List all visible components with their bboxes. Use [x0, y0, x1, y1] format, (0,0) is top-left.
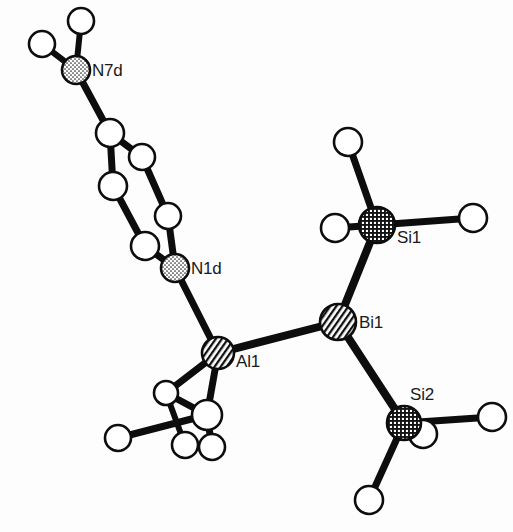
atom-n-n7d — [62, 56, 90, 84]
structure-canvas: N7dN1dAl1Bi1Si1Si2 — [0, 0, 513, 532]
atom-hydrogen-hm3 — [199, 434, 225, 460]
atom-si-si2 — [387, 406, 421, 440]
atom-bi-bi1 — [320, 304, 356, 340]
atom-label-al1: Al1 — [236, 352, 260, 371]
atom-label-n1d: N1d — [191, 259, 222, 278]
atom-hydrogen-hs2c — [355, 486, 383, 514]
atom-label-bi1: Bi1 — [359, 313, 383, 332]
atom-hydrogen-h7a — [29, 31, 55, 57]
atom-hydrogen-hs1a — [334, 128, 362, 156]
atom-si-si1 — [359, 207, 395, 243]
atom-layer — [29, 8, 506, 514]
atom-hydrogen-hs2b — [478, 403, 506, 431]
atom-al-al1 — [202, 337, 234, 369]
atom-carbon-c5 — [131, 232, 159, 260]
atom-label-si1: Si1 — [397, 228, 421, 247]
molecular-structure-figure: N7dN1dAl1Bi1Si1Si2 — [0, 0, 513, 532]
atom-carbon-c3 — [99, 172, 127, 200]
atom-carbon-cm2 — [192, 400, 222, 430]
atom-n-n1d — [161, 254, 189, 282]
atom-hydrogen-hm1 — [105, 425, 131, 451]
atom-hydrogen-h7b — [68, 8, 94, 34]
atom-label-n7d: N7d — [92, 61, 123, 80]
atom-hydrogen-hs1b — [321, 214, 349, 242]
atom-hydrogen-hs1c — [459, 204, 487, 232]
atom-label-si2: Si2 — [410, 385, 434, 404]
atom-carbon-c4 — [155, 203, 181, 229]
atom-carbon-cm1 — [154, 381, 178, 405]
atom-carbon-c1 — [96, 119, 124, 147]
atom-carbon-c2 — [129, 144, 155, 170]
atom-hydrogen-hm2 — [172, 432, 198, 458]
